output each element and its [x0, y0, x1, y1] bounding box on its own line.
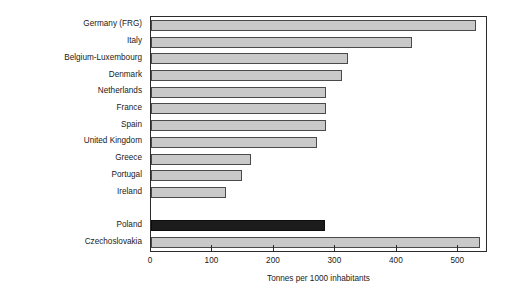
x-tick-label: 300 — [328, 256, 342, 265]
bar-denmark — [151, 70, 342, 81]
x-tick-mark — [396, 245, 397, 252]
x-tick-label: 400 — [389, 256, 403, 265]
bar-belgium-luxembourg — [151, 53, 348, 64]
bar-spain — [151, 120, 326, 131]
category-label: Netherlands — [98, 86, 142, 95]
bar-netherlands — [151, 87, 326, 98]
category-label: Portugal — [112, 170, 143, 179]
category-label: United Kingdom — [84, 136, 142, 145]
category-label: France — [117, 103, 142, 112]
x-tick-label: 200 — [266, 256, 280, 265]
x-tick-mark — [273, 245, 274, 252]
bar-czechoslovakia — [151, 237, 480, 248]
bar-united-kingdom — [151, 137, 317, 148]
x-tick-mark — [211, 245, 212, 252]
x-axis: Tonnes per 1000 inhabitants 010020030040… — [150, 252, 487, 298]
x-tick-mark — [457, 245, 458, 252]
x-tick-label: 500 — [450, 256, 464, 265]
bar-france — [151, 103, 326, 114]
bar-italy — [151, 37, 412, 48]
x-tick-label: 100 — [205, 256, 219, 265]
category-label: Germany (FRG) — [83, 19, 142, 28]
category-label: Belgium-Luxembourg — [64, 53, 142, 62]
x-axis-title: Tonnes per 1000 inhabitants — [150, 274, 487, 283]
category-axis-labels: Germany (FRG)ItalyBelgium-LuxembourgDenm… — [0, 16, 146, 252]
bar-germany-frg- — [151, 20, 476, 31]
bar-ireland — [151, 187, 226, 198]
bar-chart: Germany (FRG)ItalyBelgium-LuxembourgDenm… — [0, 0, 512, 298]
category-label: Czechoslovakia — [85, 237, 142, 246]
bars-layer — [151, 17, 486, 251]
category-label: Ireland — [117, 187, 142, 196]
x-tick-mark — [150, 245, 151, 252]
x-tick-mark — [334, 245, 335, 252]
category-label: Denmark — [109, 70, 142, 79]
category-label: Greece — [115, 153, 142, 162]
category-label: Spain — [121, 120, 142, 129]
x-tick-label: 0 — [148, 256, 153, 265]
category-label: Poland — [117, 220, 143, 229]
bar-portugal — [151, 170, 242, 181]
bar-poland — [151, 220, 325, 231]
bar-greece — [151, 154, 251, 165]
category-label: Italy — [127, 36, 142, 45]
